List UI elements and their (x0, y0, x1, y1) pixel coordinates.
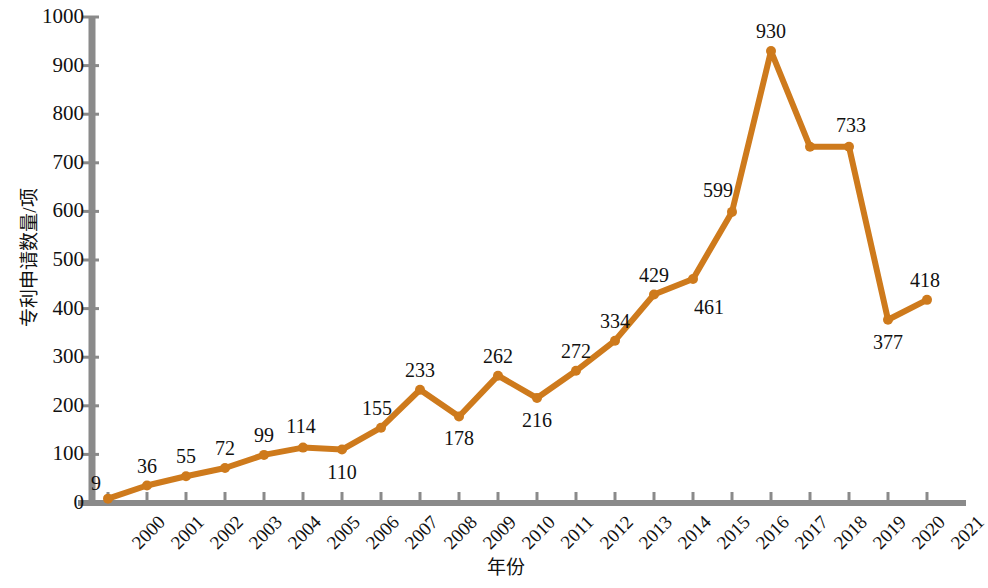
data-value-label: 418 (910, 270, 940, 290)
data-point-marker (922, 295, 932, 305)
y-axis-tick-label: 200 (22, 395, 84, 416)
data-point-marker (766, 46, 776, 56)
data-value-label: 155 (362, 398, 392, 418)
data-value-label: 733 (836, 115, 866, 135)
data-point-marker (376, 423, 386, 433)
data-point-marker (493, 371, 503, 381)
data-point-marker (298, 443, 308, 453)
data-value-label: 114 (286, 416, 315, 436)
data-value-label: 233 (405, 360, 435, 380)
data-value-label: 599 (703, 180, 733, 200)
data-point-marker (415, 385, 425, 395)
data-point-marker (220, 463, 230, 473)
data-point-marker (337, 445, 347, 455)
data-value-label: 216 (522, 410, 552, 430)
y-axis-tick-label: 0 (22, 492, 84, 513)
data-point-marker (610, 336, 620, 346)
data-value-label: 262 (483, 346, 513, 366)
data-point-marker (883, 315, 893, 325)
y-axis-tick-label: 900 (22, 55, 84, 76)
data-value-label: 99 (254, 425, 274, 445)
x-axis-title-text: 年份 (487, 558, 525, 577)
y-axis-title: 专利申请数量/项 (20, 173, 39, 343)
data-point-marker (181, 471, 191, 481)
data-value-label: 334 (600, 311, 630, 331)
data-line (108, 51, 927, 499)
y-axis-tick-label: 100 (22, 443, 84, 464)
y-axis-tick-label: 800 (22, 103, 84, 124)
data-point-marker (688, 274, 698, 284)
data-point-marker (142, 481, 152, 491)
data-point-marker (532, 393, 542, 403)
data-point-marker (103, 494, 113, 504)
data-value-label: 930 (756, 21, 786, 41)
data-point-marker (844, 142, 854, 152)
y-axis-label-group: 01002003004005006007008009001000 专利申请数量/… (8, 0, 84, 588)
data-markers (103, 46, 932, 504)
data-value-label: 36 (137, 456, 157, 476)
y-axis-tick-label: 300 (22, 346, 84, 367)
y-axis-tick-label: 1000 (22, 6, 84, 27)
data-value-label: 178 (444, 428, 474, 448)
data-point-marker (649, 290, 659, 300)
data-value-label: 72 (215, 438, 235, 458)
data-point-marker (454, 411, 464, 421)
data-point-marker (259, 450, 269, 460)
data-value-label: 272 (561, 341, 591, 361)
x-axis-title: 年份 (0, 558, 971, 577)
data-point-marker (727, 207, 737, 217)
data-value-label: 9 (91, 473, 101, 493)
data-value-label: 461 (694, 297, 724, 317)
data-value-label: 377 (873, 332, 903, 352)
data-point-marker (805, 142, 815, 152)
data-value-label: 55 (176, 446, 196, 466)
data-value-label: 429 (639, 265, 669, 285)
y-axis-tick-label: 700 (22, 152, 84, 173)
data-point-marker (571, 366, 581, 376)
data-value-label: 110 (327, 462, 356, 482)
